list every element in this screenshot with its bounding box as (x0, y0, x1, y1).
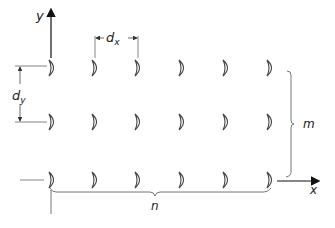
m-brace: m (286, 71, 315, 177)
m-label: m (303, 117, 315, 131)
x-axis: x (277, 181, 318, 197)
n-label: n (151, 199, 159, 213)
array-diagram: y x dx dy m n (0, 0, 335, 228)
dy-dimension: dy (12, 66, 47, 122)
y-axis: y (35, 8, 51, 214)
element-grid (49, 60, 272, 188)
dy-label: dy (12, 88, 26, 105)
dx-dimension: dx (95, 30, 138, 58)
y-axis-label: y (35, 8, 44, 23)
dx-label: dx (106, 30, 120, 47)
n-brace: n (50, 188, 271, 213)
x-axis-label: x (309, 183, 318, 197)
